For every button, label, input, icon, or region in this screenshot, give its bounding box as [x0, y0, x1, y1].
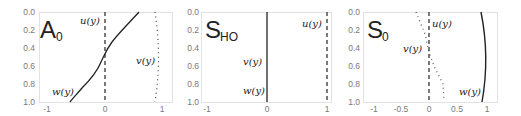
y-tick: 1.0: [23, 97, 35, 107]
x-tick: 0.5: [451, 104, 463, 114]
y-axis-ticks: 0.0 0.2 0.4 0.6 0.8 1.0: [23, 7, 35, 107]
label-v: v(y): [403, 43, 422, 54]
x-axis-ticks: -1 0 1: [43, 104, 164, 114]
x-tick: 0: [427, 104, 432, 114]
x-tick: 1: [325, 104, 330, 114]
panel-title-subscript: 0: [56, 30, 63, 44]
label-u: u(y): [80, 15, 100, 26]
panel-sho: 0.0 0.2 0.4 0.6 0.8 1.0 -1 0 1 S HO u(y)…: [187, 7, 331, 114]
panel-title-subscript: HO: [220, 30, 238, 44]
y-tick: 0.8: [348, 79, 360, 89]
series-v: [155, 12, 159, 102]
y-tick: 0.4: [348, 43, 360, 53]
x-axis-ticks: -1 -0.5 0 0.5 1: [370, 104, 489, 114]
label-v: v(y): [243, 56, 262, 67]
panel-title-subscript: 0: [382, 30, 389, 44]
panel-title: S: [205, 16, 221, 43]
y-tick: 0.8: [23, 79, 35, 89]
x-axis-ticks: -1 0 1: [203, 104, 329, 114]
panel-title: A: [40, 16, 56, 43]
y-tick: 0.2: [348, 25, 360, 35]
label-w: w(y): [459, 86, 481, 97]
label-u: u(y): [302, 18, 322, 29]
x-tick: -1: [43, 104, 51, 114]
y-tick: 0.2: [23, 25, 35, 35]
panel-title: S: [367, 16, 383, 43]
y-axis-ticks: 0.0 0.2 0.4 0.6 0.8 1.0: [348, 7, 360, 107]
figure: 0.0 0.2 0.4 0.6 0.8 1.0 -1 0 1 A 0 u(y) …: [0, 0, 521, 116]
y-tick: 0.6: [187, 61, 199, 71]
x-tick: -1: [370, 104, 378, 114]
label-v: v(y): [136, 55, 155, 66]
y-tick: 0.0: [348, 7, 360, 17]
y-tick: 0.0: [187, 7, 199, 17]
label-w: w(y): [243, 85, 265, 96]
label-w: w(y): [52, 86, 74, 97]
y-tick: 0.6: [23, 61, 35, 71]
label-u: u(y): [432, 18, 452, 29]
x-tick: -1: [203, 104, 211, 114]
y-axis-ticks: 0.0 0.2 0.4 0.6 0.8 1.0: [187, 7, 199, 107]
panel-s0: 0.0 0.2 0.4 0.6 0.8 1.0 -1 -0.5 0 0.5 1 …: [348, 7, 497, 114]
y-tick: 0.4: [187, 43, 199, 53]
y-tick: 0.4: [23, 43, 35, 53]
series-w: [481, 12, 486, 102]
x-tick: -0.5: [394, 104, 409, 114]
x-tick: 0: [265, 104, 270, 114]
y-tick: 0.8: [187, 79, 199, 89]
y-tick: 0.2: [187, 25, 199, 35]
panel-a0: 0.0 0.2 0.4 0.6 0.8 1.0 -1 0 1 A 0 u(y) …: [23, 7, 172, 114]
x-tick: 1: [160, 104, 165, 114]
x-tick: 1: [485, 104, 490, 114]
x-tick: 0: [103, 104, 108, 114]
y-tick: 1.0: [348, 97, 360, 107]
y-tick: 0.6: [348, 61, 360, 71]
y-tick: 0.0: [23, 7, 35, 17]
y-tick: 1.0: [187, 97, 199, 107]
